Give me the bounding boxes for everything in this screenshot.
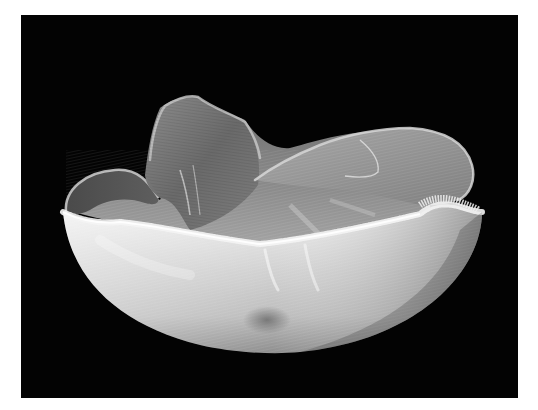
photograph bbox=[21, 15, 518, 398]
bowl-dimple bbox=[243, 306, 291, 334]
bowl-illustration bbox=[21, 15, 518, 398]
photo-frame bbox=[0, 0, 538, 410]
